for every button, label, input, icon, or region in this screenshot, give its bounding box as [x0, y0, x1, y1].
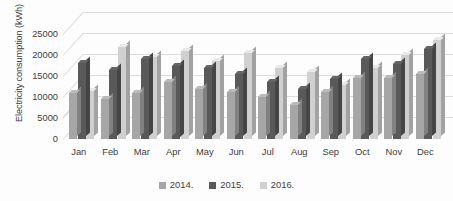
bar-face	[353, 78, 361, 139]
bar-face	[258, 97, 266, 139]
bar-sep-2014	[321, 92, 329, 139]
bar-feb-2014	[101, 99, 109, 139]
bar-side	[275, 76, 279, 136]
bar-side	[306, 83, 310, 136]
bar-side	[361, 72, 365, 136]
bar-side	[77, 86, 81, 136]
bar-oct-2014	[353, 78, 361, 139]
bar-face	[384, 78, 392, 139]
bar-side	[126, 40, 130, 136]
bar-side	[378, 61, 382, 136]
bar-face	[227, 92, 235, 139]
bar-side	[432, 42, 436, 136]
bar-face	[69, 93, 77, 139]
gridline-slant-20000	[63, 33, 84, 56]
legend-label: 2016.	[271, 180, 294, 190]
bar-mar-2014	[132, 93, 140, 139]
x-tick-jan: Jan	[63, 146, 95, 157]
bar-face	[195, 89, 203, 139]
bar-side	[392, 72, 396, 136]
bar-jun-2014	[227, 92, 235, 139]
bar-apr-2014	[164, 82, 172, 139]
bar-side	[266, 90, 270, 136]
chart-legend: 2014.2015.2016.	[0, 178, 453, 192]
bar-face	[101, 99, 109, 139]
bar-side	[94, 84, 98, 136]
gridline-slant-25000	[63, 12, 84, 35]
x-tick-may: May	[189, 146, 221, 157]
legend-item-2016[interactable]: 2016.	[260, 180, 294, 190]
x-tick-jun: Jun	[221, 146, 253, 157]
bar-side	[157, 51, 161, 136]
x-tick-oct: Oct	[347, 146, 379, 157]
bar-jan-2014	[69, 93, 77, 139]
bar-nov-2014	[384, 78, 392, 139]
x-tick-feb: Feb	[95, 146, 127, 157]
bar-side	[172, 76, 176, 136]
bar-dec-2014	[416, 74, 424, 139]
x-tick-aug: Aug	[284, 146, 316, 157]
bar-side	[315, 65, 319, 136]
bar-face	[321, 92, 329, 139]
bar-side	[203, 82, 207, 136]
bar-aug-2014	[290, 105, 298, 139]
bar-side	[117, 63, 121, 136]
legend-item-2015[interactable]: 2015.	[209, 180, 243, 190]
y-tick-15000: 15000	[12, 76, 58, 86]
y-tick-20000: 20000	[12, 55, 58, 65]
legend-item-2014[interactable]: 2014.	[159, 180, 193, 190]
legend-swatch-2016	[260, 182, 267, 189]
bar-side	[252, 46, 256, 136]
x-tick-nov: Nov	[378, 146, 410, 157]
bar-side	[441, 34, 445, 136]
bar-side	[369, 53, 373, 136]
bar-side	[189, 44, 193, 136]
bar-face	[290, 105, 298, 139]
bar-side	[409, 48, 413, 136]
y-tick-5000: 5000	[12, 118, 58, 128]
bar-side	[338, 72, 342, 136]
legend-label: 2014.	[170, 180, 193, 190]
x-tick-apr: Apr	[158, 146, 190, 157]
x-tick-dec: Dec	[410, 146, 442, 157]
x-tick-sep: Sep	[315, 146, 347, 157]
bar-side	[346, 79, 350, 136]
bar-face	[132, 93, 140, 139]
legend-swatch-2014	[159, 182, 166, 189]
bar-jul-2014	[258, 97, 266, 139]
gridline-15000	[83, 54, 453, 55]
bar-may-2014	[195, 89, 203, 139]
x-tick-jul: Jul	[252, 146, 284, 157]
bar-side	[329, 85, 333, 136]
bar-side	[220, 55, 224, 136]
x-tick-mar: Mar	[126, 146, 158, 157]
bar-side	[149, 53, 153, 136]
electricity-consumption-chart: Electricity consumption (kWh) 0500010000…	[0, 0, 453, 201]
plot-area	[63, 8, 441, 142]
bar-side	[212, 61, 216, 136]
bar-side	[140, 86, 144, 136]
legend-label: 2015.	[220, 180, 243, 190]
y-tick-10000: 10000	[12, 97, 58, 107]
bar-side	[424, 67, 428, 136]
bar-side	[401, 58, 405, 136]
legend-swatch-2015	[209, 182, 216, 189]
bar-side	[86, 57, 90, 136]
gridline-20000	[83, 33, 453, 34]
bar-face	[416, 74, 424, 139]
bar-side	[235, 85, 239, 136]
bar-side	[283, 61, 287, 136]
bar-side	[109, 93, 113, 136]
y-tick-0: 0	[12, 139, 58, 149]
gridline-25000	[83, 12, 453, 13]
y-tick-25000: 25000	[12, 34, 58, 44]
bar-side	[243, 67, 247, 136]
bar-side	[180, 59, 184, 136]
bar-face	[164, 82, 172, 139]
